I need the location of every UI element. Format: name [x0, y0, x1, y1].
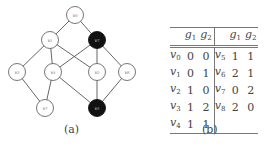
table-row: v101v621 [170, 65, 258, 82]
g1-value-cell: 2 [227, 99, 243, 116]
header-g1-right: g1 [227, 28, 243, 47]
vertex-cell: v4 [170, 116, 183, 134]
node-row3-a: v3 [9, 64, 26, 81]
g2-value-cell: 2 [198, 99, 214, 116]
caption-b: (b) [202, 123, 218, 136]
g2-value-cell [243, 116, 259, 134]
lattice-graph: v0v1v7v3v4v2v6v7v5 [0, 0, 145, 122]
table-row: v000v511 [170, 47, 258, 66]
node-row3-d: v6 [119, 64, 136, 81]
header-g2: g2 [198, 28, 214, 47]
g2-value-cell: 1 [198, 65, 214, 82]
g1-value-cell: 0 [183, 65, 199, 82]
g2-value-cell: 0 [198, 47, 214, 66]
g2-value-cell: 0 [198, 82, 214, 99]
node-mid-right: v7 [89, 32, 106, 49]
g1-value-cell: 1 [183, 99, 199, 116]
vertex-cell: v8 [214, 99, 227, 116]
assignment-table: g1 g2 g1 g2 v000v511v101v621v210v702v312… [170, 27, 258, 134]
vertex-cell: v7 [214, 82, 227, 99]
g1-value-cell: 1 [183, 82, 199, 99]
g2-value-cell: 1 [243, 47, 259, 66]
g2-value-cell: 0 [243, 99, 259, 116]
vertex-cell: v1 [170, 65, 183, 82]
node-mid-left: v1 [42, 32, 59, 49]
vertex-cell: v0 [170, 47, 183, 66]
g2-value-cell: 2 [243, 82, 259, 99]
table-row: v210v702 [170, 82, 258, 99]
caption-a: (a) [64, 123, 79, 136]
table-header-row: g1 g2 g1 g2 [170, 28, 258, 47]
g1-value-cell: 0 [183, 47, 199, 66]
vertex-cell: v5 [214, 47, 227, 66]
node-row3-b: v4 [45, 64, 62, 81]
g2-value-cell: 1 [243, 65, 259, 82]
node-top: v0 [67, 7, 84, 24]
table-row: v312v820 [170, 99, 258, 116]
g1-value-cell [227, 116, 243, 134]
g1-value-cell: 0 [227, 82, 243, 99]
node-row3-c: v2 [89, 64, 106, 81]
g1-value-cell: 1 [227, 47, 243, 66]
g1-value-cell: 2 [227, 65, 243, 82]
vertex-cell: v2 [170, 82, 183, 99]
node-bottom-right: v5 [89, 100, 106, 117]
node-bottom-left: v7 [37, 100, 54, 117]
vertex-cell: v3 [170, 99, 183, 116]
header-g1: g1 [183, 28, 199, 47]
vertex-cell: v6 [214, 65, 227, 82]
header-g2-right: g2 [243, 28, 259, 47]
g1-value-cell: 1 [183, 116, 199, 134]
